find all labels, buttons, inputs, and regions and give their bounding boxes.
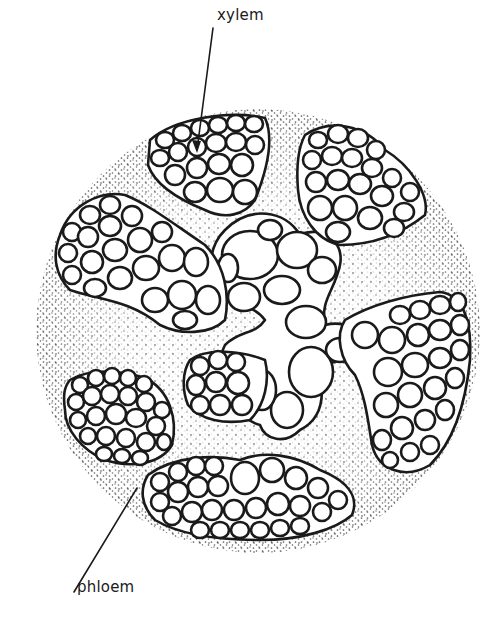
phloem-label: phloem	[77, 578, 134, 596]
root-cross-section-diagram	[0, 0, 504, 636]
xylem-arm-top-right	[297, 125, 426, 245]
xylem-label: xylem	[217, 6, 264, 24]
xylem-arm-mid-left	[184, 351, 267, 422]
phloem-leader-line	[74, 488, 137, 592]
